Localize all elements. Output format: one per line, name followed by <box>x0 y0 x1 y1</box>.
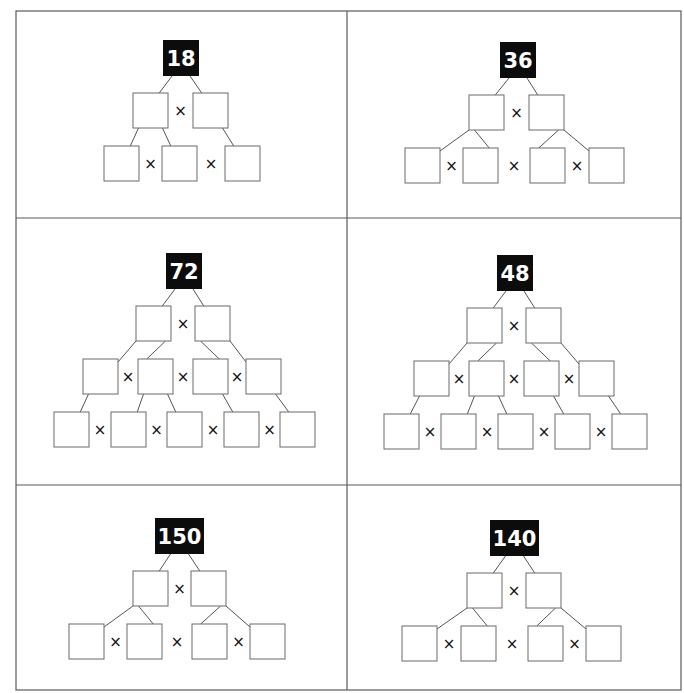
factor-answer-box[interactable] <box>162 146 197 181</box>
factor-answer-box[interactable] <box>461 626 496 661</box>
multiply-sign: × <box>424 423 437 441</box>
branch-line <box>190 76 202 93</box>
branch-line <box>201 606 221 624</box>
factor-answer-box[interactable] <box>224 412 259 447</box>
factor-answer-box[interactable] <box>246 359 281 394</box>
branch-line <box>168 394 176 412</box>
factor-answer-box[interactable] <box>414 361 449 396</box>
root-number: 140 <box>493 527 537 551</box>
factor-answer-box[interactable] <box>138 359 173 394</box>
branch-line <box>159 554 170 571</box>
branch-line <box>467 396 474 414</box>
multiply-sign: × <box>144 155 157 173</box>
branch-line <box>493 291 506 308</box>
factor-answer-box[interactable] <box>586 626 621 661</box>
factor-answer-box[interactable] <box>498 414 533 449</box>
multiply-sign: × <box>150 421 163 439</box>
factor-answer-box[interactable] <box>469 361 504 396</box>
factor-answer-box[interactable] <box>467 573 502 608</box>
multiply-sign: × <box>122 368 135 386</box>
factor-tree-bottom-right: 140×××× <box>402 520 621 661</box>
factor-answer-box[interactable] <box>529 95 564 130</box>
factor-answer-box[interactable] <box>167 412 202 447</box>
multiply-sign: × <box>443 635 456 653</box>
branch-line <box>524 556 535 573</box>
factor-answer-box[interactable] <box>225 146 260 181</box>
branch-line <box>230 341 246 362</box>
branch-line <box>561 343 579 364</box>
multiply-sign: × <box>263 421 276 439</box>
multiply-sign: × <box>174 102 187 120</box>
factor-answer-box[interactable] <box>83 359 118 394</box>
factor-answer-box[interactable] <box>280 412 315 447</box>
branch-line <box>554 396 564 414</box>
factor-answer-box[interactable] <box>467 308 502 343</box>
branch-line <box>201 341 220 359</box>
branch-line <box>410 396 419 414</box>
factor-answer-box[interactable] <box>69 624 104 659</box>
factor-answer-box[interactable] <box>193 93 228 128</box>
factor-answer-box[interactable] <box>192 624 227 659</box>
factor-answer-box[interactable] <box>384 414 419 449</box>
multiply-sign: × <box>177 368 190 386</box>
branch-line <box>495 78 509 95</box>
worksheet-border <box>16 11 681 690</box>
factor-answer-box[interactable] <box>469 95 504 130</box>
multiply-sign: × <box>231 368 244 386</box>
factor-answer-box[interactable] <box>579 361 614 396</box>
factor-answer-box[interactable] <box>402 626 437 661</box>
branch-line <box>137 394 143 412</box>
factor-answer-box[interactable] <box>127 624 162 659</box>
factor-answer-box[interactable] <box>54 412 89 447</box>
multiply-sign: × <box>563 370 576 388</box>
branch-line <box>162 289 175 306</box>
branch-line <box>475 130 490 148</box>
branch-line <box>139 606 154 624</box>
factor-answer-box[interactable] <box>463 148 498 183</box>
factor-answer-box[interactable] <box>526 308 561 343</box>
multiply-sign: × <box>538 423 551 441</box>
factor-trees: 18×××36××××72××××××××48××××××××150××××14… <box>54 40 647 661</box>
factor-tree-top-right: 36×××× <box>405 42 624 183</box>
multiply-sign: × <box>508 317 521 335</box>
root-number: 150 <box>158 525 202 549</box>
factor-answer-box[interactable] <box>250 624 285 659</box>
factor-answer-box[interactable] <box>589 148 624 183</box>
factor-answer-box[interactable] <box>104 146 139 181</box>
branch-line <box>537 608 556 626</box>
factor-answer-box[interactable] <box>612 414 647 449</box>
factor-answer-box[interactable] <box>526 573 561 608</box>
multiply-sign: × <box>94 421 107 439</box>
factor-answer-box[interactable] <box>405 148 440 183</box>
factor-tree-bottom-left: 150×××× <box>69 518 285 659</box>
multiply-sign: × <box>508 582 521 600</box>
factor-answer-box[interactable] <box>528 626 563 661</box>
multiply-sign: × <box>595 423 608 441</box>
factor-tree-middle-left: 72×××××××× <box>54 253 315 447</box>
factor-answer-box[interactable] <box>530 148 565 183</box>
branch-line <box>189 554 200 571</box>
factor-answer-box[interactable] <box>193 359 228 394</box>
factor-answer-box[interactable] <box>133 93 168 128</box>
factor-answer-box[interactable] <box>441 414 476 449</box>
branch-line <box>473 608 488 626</box>
branch-line <box>276 394 289 412</box>
branch-line <box>532 343 551 361</box>
branch-line <box>524 291 535 308</box>
factor-answer-box[interactable] <box>133 571 168 606</box>
factor-answer-box[interactable] <box>136 306 171 341</box>
root-number: 72 <box>169 260 198 284</box>
branch-line <box>159 76 172 93</box>
branch-line <box>539 130 559 148</box>
factor-answer-box[interactable] <box>195 306 230 341</box>
factor-answer-box[interactable] <box>555 414 590 449</box>
branch-line <box>193 289 204 306</box>
factor-answer-box[interactable] <box>191 571 226 606</box>
multiply-sign: × <box>232 633 245 651</box>
factor-answer-box[interactable] <box>111 412 146 447</box>
factor-answer-box[interactable] <box>524 361 559 396</box>
branch-line <box>493 556 505 573</box>
root-number: 48 <box>500 262 529 286</box>
multiply-sign: × <box>481 423 494 441</box>
multiply-sign: × <box>453 370 466 388</box>
